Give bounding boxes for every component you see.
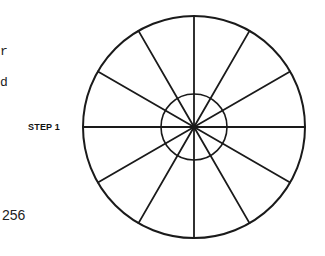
- spoke: [98, 127, 194, 183]
- spoke: [194, 127, 250, 223]
- spoked-wheel-diagram: [0, 0, 325, 256]
- spoke: [194, 127, 290, 183]
- spoke: [194, 72, 290, 128]
- hub-dot: [192, 125, 197, 130]
- spoke: [194, 31, 250, 127]
- spoke: [139, 127, 195, 223]
- spoke: [139, 31, 195, 127]
- page-number: 256: [2, 207, 25, 223]
- spoke: [98, 72, 194, 128]
